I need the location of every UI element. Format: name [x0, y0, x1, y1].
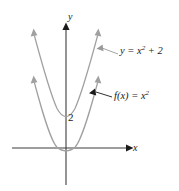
lower-curve-equation-base: f(x) = x — [114, 90, 146, 101]
graph-canvas — [0, 0, 179, 191]
y-axis — [62, 23, 69, 186]
upper-curve-equation-label: y = x2 + 2 — [120, 46, 163, 57]
upper-parabola-left-arrowhead-icon — [31, 28, 38, 36]
x-axis — [12, 144, 134, 151]
y-axis-label: y — [68, 12, 72, 22]
leader-lower-label — [89, 89, 112, 98]
lower-parabola-right-arrowhead-icon — [95, 75, 102, 83]
x-axis-label: x — [133, 143, 137, 153]
leader-upper-line — [102, 48, 118, 54]
upper-parabola-right-arrowhead-icon — [95, 28, 102, 36]
lower-curve-equation-exponent: 2 — [146, 89, 150, 97]
graph-figure: y x 2 y = x2 + 2 f(x) = x2 — [0, 0, 179, 191]
leader-lower-line — [96, 92, 112, 97]
upper-curve-equation-suffix: + 2 — [145, 45, 163, 56]
upper-curve-equation-base: y = x — [120, 45, 142, 56]
leader-upper-label — [97, 45, 119, 55]
leader-lower-arrowhead-icon — [89, 89, 96, 96]
lower-curve-equation-label: f(x) = x2 — [114, 91, 149, 102]
lower-parabola-left-arrowhead-icon — [31, 75, 38, 83]
y-intercept-tick-label: 2 — [68, 112, 74, 123]
y-axis-arrowhead-icon — [62, 23, 69, 31]
leader-upper-arrowhead-icon — [97, 45, 104, 52]
